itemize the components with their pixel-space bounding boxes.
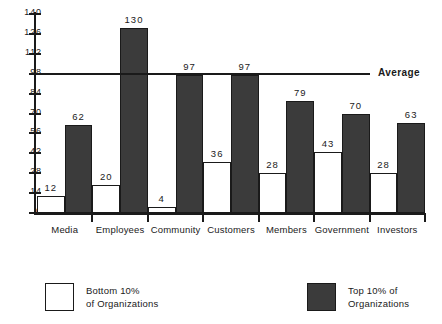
bar-top-members [286,101,314,213]
dark-square-swatch [307,283,336,311]
bar-top-media [65,125,93,213]
legend-item-top: Top 10% of Organizations [307,283,409,311]
bar-value-label: 62 [65,112,93,122]
bar-value-label: 28 [370,160,398,170]
bar-value-label: 130 [120,15,148,25]
bar-value-label: 70 [342,101,370,111]
legend-item-top-label: Top 10% of Organizations [348,283,409,310]
light-square-swatch [45,283,74,311]
bar-value-label: 63 [397,110,425,120]
legend-item-bottom-label: Bottom 10% of Organizations [86,283,158,310]
x-tick-mark [424,213,426,222]
x-tick-mark [313,213,315,222]
bar-top-community [176,75,204,213]
bar-top-government [342,114,370,214]
x-category-label-employees: Employees [96,224,145,235]
x-tick-mark [202,213,204,222]
plot-area: 1262201304973697287943702863 [37,14,425,213]
bar-bottom-investors [370,173,398,213]
average-line-label: Average [378,67,420,78]
x-category-label-community: Community [151,224,201,235]
bar-chart: 014284256708498112126140 126220130497369… [0,0,442,324]
x-tick-mark [91,213,93,222]
x-tick-mark [258,213,260,222]
bar-bottom-employees [92,185,120,213]
bar-top-employees [120,28,148,213]
legend-item-bottom: Bottom 10% of Organizations [45,283,158,311]
x-tick-mark [147,213,149,222]
bar-bottom-government [314,152,342,213]
x-category-label-government: Government [315,224,369,235]
average-reference-line [34,73,370,75]
bar-value-label: 36 [203,149,231,159]
bar-value-label: 28 [259,160,287,170]
bar-value-label: 4 [148,194,176,204]
bar-value-label: 79 [286,88,314,98]
bar-value-label: 43 [314,139,342,149]
bar-value-label: 12 [37,183,65,193]
x-category-label-media: Media [51,224,78,235]
bar-bottom-members [259,173,287,213]
bar-top-investors [397,123,425,213]
x-category-label-customers: Customers [207,224,255,235]
bar-top-customers [231,75,259,213]
x-category-label-members: Members [266,224,307,235]
bar-bottom-customers [203,162,231,213]
bar-bottom-community [148,207,176,213]
bar-bottom-media [37,196,65,213]
bar-value-label: 97 [231,62,259,72]
x-category-label-investors: Investors [377,224,417,235]
x-tick-mark [369,213,371,222]
bar-value-label: 20 [92,172,120,182]
bar-value-label: 97 [176,62,204,72]
